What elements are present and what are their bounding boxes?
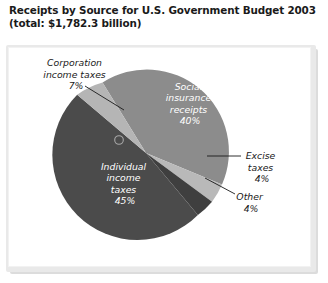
callout-corporation-value: 7% <box>69 80 84 91</box>
chart-title-line-1: Receipts by Source for U.S. Government B… <box>9 4 316 16</box>
slice-label-individual-value: 45% <box>115 195 136 206</box>
slice-label-social-value: 40% <box>180 115 201 126</box>
callout-corporation-line-1: Corporation <box>47 57 102 68</box>
figure-container: Receipts by Source for U.S. Government B… <box>0 0 328 283</box>
chart-panel: Social insurance receipts 40% Individual… <box>8 47 311 267</box>
slice-label-individual-line-3: taxes <box>111 184 137 195</box>
slice-label-social-line-1: Social <box>175 81 203 92</box>
slice-label-social-line-3: receipts <box>170 104 208 115</box>
pie-chart: Social insurance receipts 40% Individual… <box>9 48 310 266</box>
slice-label-individual-line-1: Individual <box>101 161 147 172</box>
callout-corporation-line-2: income taxes <box>43 69 106 80</box>
slice-label-social-line-2: insurance <box>166 92 212 103</box>
callout-excise-line-2: taxes <box>248 162 274 173</box>
callout-excise-value: 4% <box>255 173 270 184</box>
chart-title-line-2: (total: $1,782.3 billion) <box>9 17 319 30</box>
callout-excise-line-1: Excise <box>246 150 276 161</box>
callout-label-other: Other 4% <box>236 191 265 214</box>
callout-other-value: 4% <box>244 203 259 214</box>
slice-label-individual-line-2: income <box>106 172 140 183</box>
callout-other-line-1: Other <box>236 191 264 202</box>
callout-label-excise-taxes: Excise taxes 4% <box>246 150 279 184</box>
chart-title: Receipts by Source for U.S. Government B… <box>9 4 319 30</box>
